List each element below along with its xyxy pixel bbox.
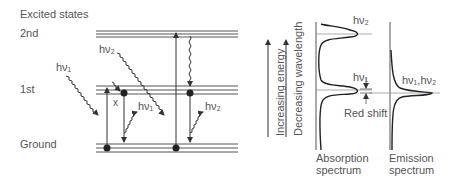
emitted-hv2-label: hν₂: [205, 100, 221, 112]
decreasing-wavelength-label: Decreasing wavelength: [292, 22, 304, 136]
nonradiative-decay-wave: [189, 36, 191, 86]
energy-diagram: [0, 0, 455, 183]
incoming-hv2-label: hν₂: [99, 43, 115, 55]
absorption-peak-hv1-label: hν₁: [353, 71, 368, 83]
absorption-spectrum-plot: [316, 22, 372, 150]
emitted-hv1-label: hν₁: [138, 100, 153, 112]
emission-peak-label: hν₁,hν₂: [402, 74, 436, 86]
emission-title-line1: Emission: [389, 152, 434, 164]
second-level-lines: [96, 31, 238, 37]
emission-spectrum-plot: [370, 22, 440, 150]
ground-level-lines: [96, 144, 238, 152]
emitted-photon-hv1: [124, 112, 137, 133]
incoming-photon-hv1: [66, 76, 98, 115]
emitted-photon-hv2: [190, 112, 203, 133]
marker-x-label: x: [113, 97, 118, 108]
increasing-energy-label: Increasing energy: [274, 49, 286, 136]
first-level-lines: [96, 86, 238, 94]
incoming-hv1-label: hν₁: [56, 61, 71, 73]
red-shift-label: Red shift: [344, 107, 387, 119]
absorption-peak-hv2-label: hν₂: [353, 14, 369, 26]
emission-title-line2: spectrum: [389, 164, 434, 176]
absorption-title-line2: spectrum: [316, 164, 361, 176]
absorption-title-line1: Absorption: [316, 152, 369, 164]
